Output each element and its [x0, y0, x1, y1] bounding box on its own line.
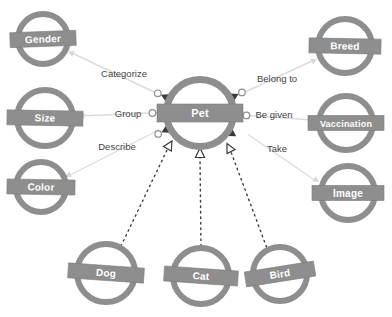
- node-label: Pet: [191, 107, 209, 119]
- open-circle-icon: [239, 89, 246, 96]
- node-size: Size: [7, 90, 83, 146]
- edge-label-describe: Describe: [98, 141, 136, 152]
- edge-label-take: Take: [267, 143, 287, 154]
- pet-concept-diagram: Categorize Group Describe Belong to Be g…: [0, 0, 392, 317]
- node-label: Cat: [192, 270, 210, 282]
- node-label: Vaccination: [320, 119, 372, 129]
- edge-line: [68, 132, 155, 176]
- edge-label-categorize: Categorize: [101, 68, 147, 79]
- node-label: Breed: [330, 40, 360, 52]
- node-label: Color: [27, 181, 54, 192]
- node-bird: Bird: [244, 247, 315, 301]
- open-circle-icon: [149, 110, 156, 117]
- node-dog: Dog: [68, 244, 145, 302]
- node-label: Dog: [96, 267, 117, 279]
- edge-label-be-given: Be given: [256, 109, 293, 120]
- node-gender: Gender: [10, 14, 76, 64]
- dashed-line: [121, 149, 168, 246]
- node-label: Gender: [25, 33, 62, 45]
- edge-pet-color: [65, 132, 155, 177]
- dashed-line: [200, 158, 201, 246]
- open-circle-icon: [243, 112, 250, 119]
- node-label: Size: [34, 112, 55, 123]
- edge-label-group: Group: [115, 108, 141, 119]
- edge-dog-pet: [121, 141, 172, 246]
- node-label: Image: [333, 188, 363, 199]
- open-circle-icon: [155, 131, 162, 138]
- node-vaccination: Vaccination: [308, 96, 384, 150]
- edge-label-belong-to: Belong to: [257, 73, 297, 84]
- nodes: Gender Size Color Pet: [7, 14, 384, 304]
- dashed-line: [231, 152, 267, 247]
- node-image: Image: [312, 166, 384, 220]
- open-circle-icon: [155, 90, 162, 97]
- edge-pet-image: [248, 135, 319, 183]
- node-color: Color: [7, 162, 75, 212]
- hollow-triangle-icon: [164, 141, 173, 151]
- hollow-triangle-icon: [227, 144, 235, 154]
- diagram-canvas: Categorize Group Describe Belong to Be g…: [0, 0, 392, 317]
- edge-cat-pet: [196, 148, 205, 246]
- node-pet: Pet: [157, 80, 243, 147]
- node-cat: Cat: [164, 248, 239, 304]
- generalization-edges: [121, 141, 267, 247]
- node-breed: Breed: [309, 19, 381, 73]
- edge-bird-pet: [227, 144, 267, 248]
- edge-line: [248, 135, 316, 182]
